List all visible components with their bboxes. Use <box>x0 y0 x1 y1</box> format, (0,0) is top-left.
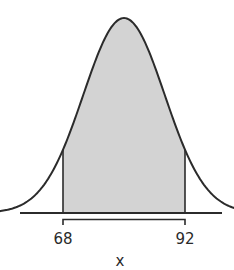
x-axis-label: x <box>116 252 125 270</box>
shaded-area <box>63 18 185 213</box>
left-bound-label: 68 <box>53 230 72 248</box>
right-bound-label: 92 <box>175 230 194 248</box>
normal-distribution-chart: 68 92 x <box>0 0 234 270</box>
range-bracket <box>63 220 185 226</box>
